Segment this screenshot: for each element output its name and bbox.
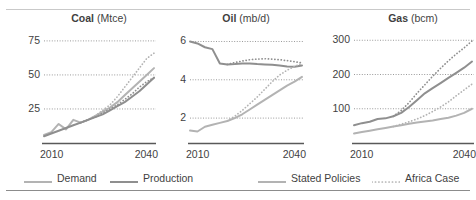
line-swatch-dotted [372,173,400,183]
panel-title-oil: Oil (mb/d) [190,12,302,24]
x-tick-label-gas-2040: 2040 [446,148,476,160]
panel-coal: Coal (Mtce)25507520102040 [6,12,158,162]
panel-oil: Oil (mb/d)24620102040 [160,12,308,162]
legend-item-africa-case[interactable]: Africa Case [372,170,459,186]
legend-label: Africa Case [405,172,459,184]
y-tick-label-gas-100: 100 [314,103,350,114]
series-gas-production-africa-case [393,41,472,116]
y-tick-label-oil-2: 2 [164,112,186,123]
series-coal-production-stated-policies [44,78,154,137]
x-tick-label-oil-2040: 2040 [276,148,306,160]
panel-title-unit: (bcm) [411,12,438,24]
y-tick-label-coal-25: 25 [10,103,40,114]
series-coal-production-africa-case [81,78,154,123]
legend-label: Stated Policies [291,172,360,184]
y-tick-label-coal-50: 50 [10,69,40,80]
panel-title-unit: (Mtce) [97,12,127,24]
y-tick-label-oil-6: 6 [164,35,186,46]
x-tick-label-oil-2010: 2010 [186,148,209,160]
legend-item-production[interactable]: Production [110,170,193,186]
plot-area-oil [190,30,302,143]
chart-panels: Coal (Mtce)25507520102040 Oil (mb/d)2462… [0,12,476,162]
plot-area-coal [44,30,154,143]
plot-area-gas [354,30,472,143]
legend-item-demand[interactable]: Demand [24,170,97,186]
line-swatch-solid [258,173,286,183]
line-swatch-solid [24,173,52,183]
panel-title-name: Gas [388,12,408,24]
panel-title-name: Coal [71,12,94,24]
chart-legend: DemandProductionStated PoliciesAfrica Ca… [0,170,476,188]
y-tick-label-coal-75: 75 [10,35,40,46]
y-tick-label-gas-200: 200 [314,69,350,80]
series-oil-demand-africa-case [227,64,302,121]
line-swatch-solid [110,173,138,183]
x-tick-label-coal-2010: 2010 [40,148,63,160]
bottom-divider [6,190,470,191]
panel-title-name: Oil [222,12,236,24]
panel-gas: Gas (bcm)10020030020102040 [310,12,476,162]
legend-label: Demand [57,172,97,184]
legend-item-stated-policies[interactable]: Stated Policies [258,170,360,186]
series-coal-demand-stated-policies [44,68,154,135]
series-oil-production-stated-policies [190,41,302,66]
y-tick-label-gas-300: 300 [314,34,350,45]
x-tick-label-coal-2040: 2040 [128,148,158,160]
panel-title-gas: Gas (bcm) [354,12,472,24]
panel-title-unit: (mb/d) [239,12,269,24]
energy-outlook-figure: Coal (Mtce)25507520102040 Oil (mb/d)2462… [0,0,476,200]
top-divider [6,9,470,10]
series-oil-demand-stated-policies [190,77,302,132]
panel-title-coal: Coal (Mtce) [44,12,154,24]
y-tick-label-oil-4: 4 [164,74,186,85]
legend-label: Production [143,172,193,184]
x-tick-label-gas-2010: 2010 [350,148,373,160]
